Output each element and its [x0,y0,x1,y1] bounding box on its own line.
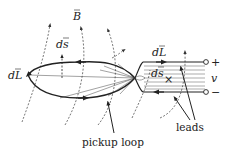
pickup-loop-diagram: B ds dL dL ds × v + − pickup loop leads [0,0,228,160]
label-ds-loop: ds [56,38,69,51]
label-ds-leads: ds [151,67,164,80]
label-terminal-negative: − [211,86,220,99]
label-voltage: v [211,72,218,85]
into-page-marker: × [164,73,173,86]
caption-leads: leads [176,121,204,133]
label-dl-left: dL [8,69,22,82]
positive-terminal [204,60,209,65]
label-terminal-positive: + [211,56,220,69]
label-dl-leads: dL [152,46,166,59]
negative-terminal [204,90,209,95]
label-b-field: B [72,10,81,23]
labels: B ds dL dL ds × v + − pickup loop leads [8,10,220,148]
caption-pickup-loop: pickup loop [82,136,144,148]
